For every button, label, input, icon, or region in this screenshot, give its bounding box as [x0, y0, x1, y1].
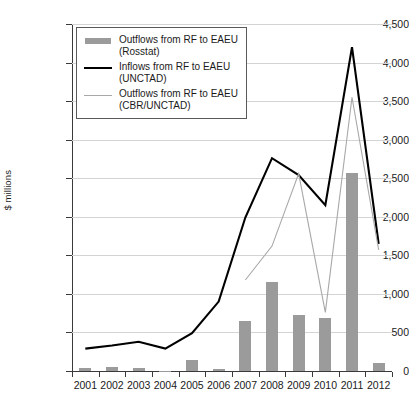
- x-axis-tick-label: 2004: [152, 379, 179, 391]
- x-axis-tick-mark: [99, 372, 100, 377]
- x-axis-tick-mark: [232, 372, 233, 377]
- legend-item-outflows-cbr-unctad: Outflows from RF to EAEU (CBR/UNCTAD): [84, 88, 240, 111]
- line-gray-swatch-icon: [84, 89, 112, 102]
- x-axis-tick-mark: [179, 372, 180, 377]
- x-axis-tick-mark: [365, 372, 366, 377]
- x-axis-tick-label: 2008: [259, 379, 286, 391]
- chart-figure: $ millions 05001,0001,5002,0002,5003,000…: [0, 0, 409, 411]
- x-axis-tick-label: 2012: [365, 379, 392, 391]
- x-axis-tick-label: 2003: [125, 379, 152, 391]
- x-axis-tick-label: 2005: [179, 379, 206, 391]
- line-series-outflows-cbr-unctad: [245, 97, 378, 312]
- x-axis-tick-mark: [125, 372, 126, 377]
- legend-label-line1: Outflows from RF to EAEU: [119, 88, 238, 99]
- line-dark-swatch-icon: [84, 62, 112, 75]
- x-axis-tick-label: 2011: [339, 379, 366, 391]
- x-axis-tick-mark: [285, 372, 286, 377]
- x-axis-tick-mark: [312, 372, 313, 377]
- legend-label-outflows-rosstat: Outflows from RF to EAEU (Rosstat): [119, 34, 238, 57]
- legend-item-outflows-rosstat: Outflows from RF to EAEU (Rosstat): [84, 34, 240, 57]
- x-axis-tick-mark: [72, 372, 73, 377]
- x-axis-tick-label: 2001: [72, 379, 99, 391]
- x-axis-tick-mark: [152, 372, 153, 377]
- x-axis-tick-mark: [339, 372, 340, 377]
- legend-label-outflows-cbr-unctad: Outflows from RF to EAEU (CBR/UNCTAD): [119, 88, 238, 111]
- x-axis-tick-label: 2009: [285, 379, 312, 391]
- legend-label-line2: (UNCTAD): [119, 73, 167, 84]
- x-axis-tick-label: 2002: [99, 379, 126, 391]
- x-axis-tick-mark: [205, 372, 206, 377]
- legend-label-inflows-unctad: Inflows from RF to EAEU (UNCTAD): [119, 61, 230, 84]
- legend-item-inflows-unctad: Inflows from RF to EAEU (UNCTAD): [84, 61, 240, 84]
- x-axis-tick-mark: [259, 372, 260, 377]
- y-axis-title: $ millions: [2, 170, 16, 211]
- bar-swatch-icon: [84, 35, 112, 48]
- x-axis-tick-label: 2007: [232, 379, 259, 391]
- x-axis-tick-label: 2010: [312, 379, 339, 391]
- legend-label-line2: (CBR/UNCTAD): [119, 100, 190, 111]
- chart-legend: Outflows from RF to EAEU (Rosstat) Inflo…: [76, 27, 247, 119]
- legend-label-line1: Outflows from RF to EAEU: [119, 34, 238, 45]
- x-axis-tick-mark: [392, 372, 393, 377]
- legend-label-line2: (Rosstat): [119, 46, 160, 57]
- x-axis-tick-label: 2006: [205, 379, 232, 391]
- legend-label-line1: Inflows from RF to EAEU: [119, 61, 230, 72]
